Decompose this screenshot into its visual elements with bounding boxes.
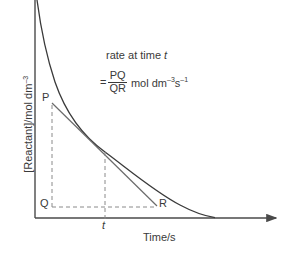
axis-tick-label-t: t — [102, 220, 105, 231]
rate-fraction: PQ QR — [108, 70, 127, 94]
rate-caption: rate at time t — [106, 50, 167, 61]
rate-caption-variable: t — [164, 49, 167, 61]
fraction-numerator: PQ — [109, 70, 127, 82]
rate-expression: = PQ QR mol dm–3s–1 — [100, 70, 188, 94]
y-axis-label: [Reactant]/mol dm–3 — [22, 49, 35, 199]
x-axis-label: Time/s — [143, 232, 176, 243]
units-base: mol dm — [131, 76, 167, 88]
point-label-r: R — [159, 198, 167, 209]
point-label-q: Q — [40, 198, 49, 209]
plot-canvas — [0, 0, 293, 254]
equals-sign: = — [100, 77, 106, 88]
rate-units: mol dm–3s–1 — [131, 76, 188, 89]
fraction-denominator: QR — [108, 83, 127, 95]
concentration-curve — [37, 0, 215, 218]
units-exponent-concentration: –3 — [167, 76, 175, 83]
reaction-rate-diagram: [Reactant]/mol dm–3 Time/s P Q R t rate … — [0, 0, 293, 254]
units-exponent-time: –1 — [180, 76, 188, 83]
rate-caption-text: rate at time — [106, 49, 164, 61]
point-label-p: P — [42, 92, 49, 103]
y-axis-exponent: –3 — [22, 76, 29, 84]
